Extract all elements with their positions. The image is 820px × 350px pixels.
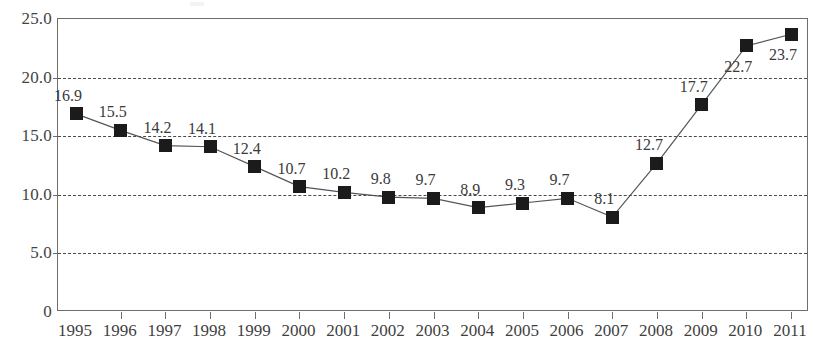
y-tick-label: 25.0 <box>0 10 52 27</box>
data-point-label: 14.2 <box>134 120 180 136</box>
x-tick-label: 2011 <box>760 322 820 339</box>
x-tick-mark <box>255 312 256 319</box>
data-point-label: 12.7 <box>626 137 672 153</box>
data-point-marker <box>740 39 753 52</box>
x-tick-mark <box>434 312 435 319</box>
data-point-label: 22.7 <box>715 59 761 75</box>
data-point-marker <box>114 124 127 137</box>
x-tick-mark <box>210 312 211 319</box>
data-point-marker <box>472 201 485 214</box>
x-tick-mark <box>478 312 479 319</box>
data-point-label: 15.5 <box>90 104 136 120</box>
data-point-label: 14.1 <box>179 121 225 137</box>
x-tick-mark <box>121 312 122 319</box>
x-tick-mark <box>344 312 345 319</box>
x-tick-mark <box>657 312 658 319</box>
y-tick-mark <box>53 78 58 79</box>
y-tick-label: 10.0 <box>0 186 52 203</box>
y-tick-mark <box>53 136 58 137</box>
data-point-marker <box>248 160 261 173</box>
data-point-marker <box>785 28 798 41</box>
data-point-marker <box>70 107 83 120</box>
y-axis-labels: 05.010.015.020.025.0 <box>0 0 52 350</box>
data-point-marker <box>427 192 440 205</box>
data-point-marker <box>338 186 351 199</box>
data-point-marker <box>382 191 395 204</box>
plot-area: 16.915.514.214.112.410.710.29.89.78.99.3… <box>57 18 808 311</box>
data-point-label: 9.7 <box>403 172 449 188</box>
data-point-marker <box>159 139 172 152</box>
gridline <box>58 136 807 137</box>
data-point-label: 9.8 <box>358 171 404 187</box>
data-point-marker <box>650 157 663 170</box>
data-point-label: 8.9 <box>447 182 493 198</box>
data-point-marker <box>204 140 217 153</box>
data-point-label: 23.7 <box>760 47 806 63</box>
data-point-label: 10.2 <box>313 166 359 182</box>
scan-artifact <box>190 2 204 6</box>
data-point-marker <box>516 197 529 210</box>
x-tick-mark <box>165 312 166 319</box>
y-tick-label: 0 <box>0 303 52 320</box>
x-tick-mark <box>523 312 524 319</box>
data-point-label: 17.7 <box>671 79 717 95</box>
data-point-marker <box>606 211 619 224</box>
x-tick-mark <box>702 312 703 319</box>
data-point-label: 12.4 <box>224 141 270 157</box>
x-tick-mark <box>299 312 300 319</box>
data-point-marker <box>561 192 574 205</box>
x-tick-mark <box>389 312 390 319</box>
data-point-label: 16.9 <box>45 88 91 104</box>
data-point-label: 9.3 <box>492 177 538 193</box>
data-point-label: 10.7 <box>268 161 314 177</box>
x-tick-mark <box>791 312 792 319</box>
y-tick-mark <box>53 195 58 196</box>
x-tick-mark <box>568 312 569 319</box>
data-point-label: 8.1 <box>581 191 627 207</box>
y-tick-label: 15.0 <box>0 127 52 144</box>
x-tick-mark <box>746 312 747 319</box>
x-tick-mark <box>612 312 613 319</box>
gridline <box>58 253 807 254</box>
y-tick-mark <box>53 253 58 254</box>
series-line <box>58 19 809 312</box>
data-point-marker <box>293 180 306 193</box>
data-point-label: 9.7 <box>537 172 583 188</box>
y-tick-label: 20.0 <box>0 69 52 86</box>
y-tick-label: 5.0 <box>0 244 52 261</box>
line-chart: 05.010.015.020.025.0 16.915.514.214.112.… <box>0 0 820 350</box>
data-point-marker <box>695 98 708 111</box>
